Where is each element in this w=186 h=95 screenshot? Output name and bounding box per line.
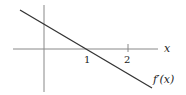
curve-label: f′(x)	[152, 73, 174, 86]
derivative-graph: x 1 2 f′(x)	[0, 0, 186, 95]
x-tick-label-2: 2	[124, 54, 130, 65]
x-axis-label: x	[164, 42, 171, 55]
x-tick-label-1: 1	[84, 54, 90, 65]
